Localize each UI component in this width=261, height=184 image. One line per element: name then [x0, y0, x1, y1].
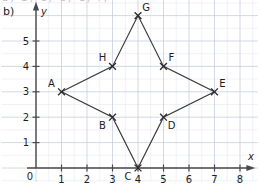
point-label-H: H [99, 52, 107, 63]
y-tick-label-2: 2 [23, 112, 29, 123]
point-label-F: F [169, 52, 175, 63]
point-label-E: E [219, 78, 225, 89]
x-tick-label-4: 4 [135, 174, 141, 184]
point-label-G: G [142, 2, 150, 13]
major-gridlines [2, 0, 258, 182]
x-tick-label-3: 3 [109, 174, 115, 184]
y-axis-title: y [40, 6, 48, 17]
x-tick-label-2: 2 [84, 174, 90, 184]
axis-ticks [33, 41, 241, 172]
x-axis-title: x [247, 151, 254, 162]
origin-label: 0 [27, 171, 33, 182]
part-label: b) [3, 5, 14, 18]
plot-canvas: 1234567812345 ABCDEFGH x y 0 [0, 0, 261, 184]
point-label-B: B [99, 120, 106, 131]
minor-gridlines [2, 0, 258, 182]
x-tick-label-1: 1 [58, 174, 64, 184]
point-label-C: C [125, 171, 132, 182]
y-tick-label-1: 1 [23, 137, 29, 148]
y-tick-label-3: 3 [23, 86, 29, 97]
point-label-D: D [168, 120, 176, 131]
x-tick-label-8: 8 [237, 174, 243, 184]
x-tick-label-5: 5 [160, 174, 166, 184]
x-tick-label-7: 7 [211, 174, 217, 184]
y-tick-label-5: 5 [23, 36, 29, 47]
coordinate-plot: 1234567812345 ABCDEFGH x y 0 b) [0, 0, 261, 184]
x-tick-label-6: 6 [186, 174, 192, 184]
point-label-A: A [48, 78, 55, 89]
axis-tick-labels: 1234567812345 [23, 36, 244, 184]
y-tick-label-4: 4 [23, 61, 29, 72]
